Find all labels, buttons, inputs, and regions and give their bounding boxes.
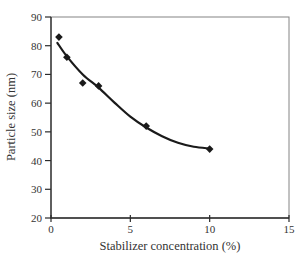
y-tick-label: 40 [31, 155, 43, 167]
y-tick-label: 30 [31, 183, 43, 195]
x-tick-label: 15 [284, 223, 296, 235]
x-axis-title: Stabilizer concentration (%) [100, 239, 241, 253]
data-point [55, 33, 63, 41]
plot-area: 2030405060708090051015 [31, 11, 295, 235]
y-tick-label: 60 [31, 97, 43, 109]
plot-frame [51, 17, 289, 218]
y-tick-label: 70 [31, 68, 43, 80]
data-point [206, 145, 214, 153]
y-axis-title: Particle size (nm) [4, 73, 18, 161]
y-tick-label: 50 [31, 126, 43, 138]
x-tick-label: 0 [48, 223, 54, 235]
y-tick-label: 20 [31, 212, 43, 224]
chart-figure: 2030405060708090051015 Stabilizer concen… [0, 0, 307, 263]
data-point [79, 79, 87, 87]
axes-lines [51, 17, 289, 218]
x-tick-label: 5 [128, 223, 134, 235]
trend-curve [57, 43, 209, 149]
particle-size-chart: 2030405060708090051015 Stabilizer concen… [0, 0, 307, 263]
y-tick-label: 80 [31, 40, 43, 52]
x-tick-label: 10 [204, 223, 216, 235]
y-tick-label: 90 [31, 11, 43, 23]
